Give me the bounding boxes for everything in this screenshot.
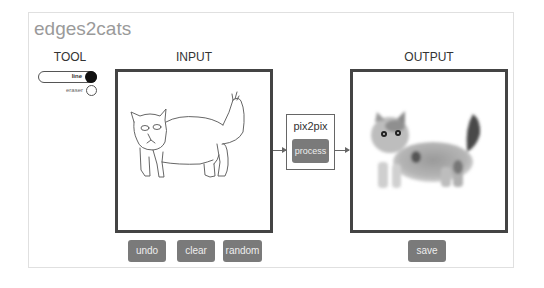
generated-cat-icon: [353, 72, 505, 230]
app-title: edges2cats: [34, 18, 131, 40]
input-label: INPUT: [115, 50, 273, 64]
arrow-right-icon: [273, 150, 286, 151]
output-image: [350, 69, 508, 233]
random-button[interactable]: random: [223, 240, 262, 262]
tool-option-line[interactable]: line: [38, 71, 97, 83]
radio-selected-icon: [85, 71, 97, 83]
radio-unselected-icon: [86, 85, 97, 96]
pix2pix-panel: pix2pix process: [286, 114, 335, 170]
model-label: pix2pix: [287, 120, 334, 132]
save-button[interactable]: save: [408, 240, 446, 262]
arrow-right-icon: [335, 150, 349, 151]
undo-button[interactable]: undo: [128, 240, 166, 262]
tool-option-eraser[interactable]: eraser: [60, 85, 97, 97]
tool-label: TOOL: [50, 50, 90, 64]
tool-option-line-label: line: [72, 73, 82, 79]
cat-sketch-icon: [118, 72, 270, 230]
output-label: OUTPUT: [350, 50, 508, 64]
clear-button[interactable]: clear: [177, 240, 215, 262]
input-canvas[interactable]: [115, 69, 273, 233]
tool-option-eraser-label: eraser: [66, 87, 83, 93]
process-button[interactable]: process: [292, 139, 329, 163]
